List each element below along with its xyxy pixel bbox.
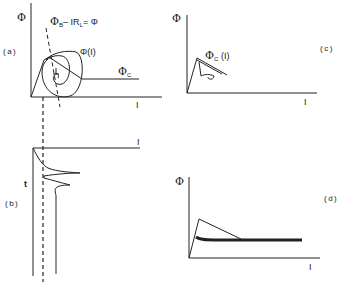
panel-c-label: (c) [320, 45, 334, 53]
panel-d-stable-trajectory [196, 237, 302, 240]
figure-canvas [0, 0, 343, 282]
panel-d-label: (d) [324, 195, 338, 203]
panel-a-loadline-equation: ΦB– IRL= Φ [50, 16, 98, 28]
panel-d-y-axis-label: Φ [175, 176, 184, 187]
panel-b-time-response [33, 148, 80, 274]
panel-a-curve-label: Φ(I) [80, 48, 96, 57]
panel-c-y-axis-label: Φ [172, 13, 181, 24]
panel-a-spiral-trajectory [42, 51, 82, 97]
panel-a-critical-label: ΦC [118, 66, 131, 78]
panel-a-x-axis-label: I [136, 101, 139, 110]
panel-a-label: (a) [3, 48, 17, 56]
panel-c-characteristic-curve [187, 58, 227, 93]
panel-a-load-line [46, 28, 60, 107]
panel-b-t-axis-label: t [24, 180, 27, 189]
panel-c-curve-label: ΦC (I) [205, 50, 229, 62]
panel-d-x-axis-label: I [309, 263, 312, 272]
panel-b-label: (b) [5, 200, 19, 208]
panel-b-x-axis-label: I [137, 138, 140, 147]
panel-a-y-axis-label: Φ [17, 12, 26, 23]
panel-c-x-axis-label: I [304, 98, 307, 107]
